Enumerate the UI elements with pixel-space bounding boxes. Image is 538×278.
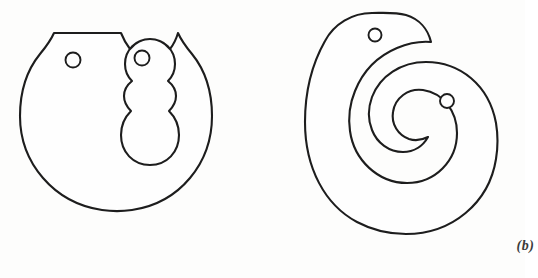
figure-a-outline (20, 33, 212, 211)
figure-b-drawing (262, 0, 525, 278)
figure-b-hole-lower (440, 94, 454, 108)
figure-panel-b: (b) (262, 0, 525, 278)
figure-b-caption: (b) (394, 238, 538, 254)
figure-a-hole-right (135, 51, 150, 66)
figure-b-hole-upper (369, 29, 382, 42)
figure-panel-a: (a) (0, 0, 262, 278)
figure-b-outline (305, 13, 498, 234)
figure-a-caption: (a) (0, 238, 114, 254)
figure-a-hole-left (66, 53, 81, 68)
figure-a-drawing (0, 0, 262, 278)
